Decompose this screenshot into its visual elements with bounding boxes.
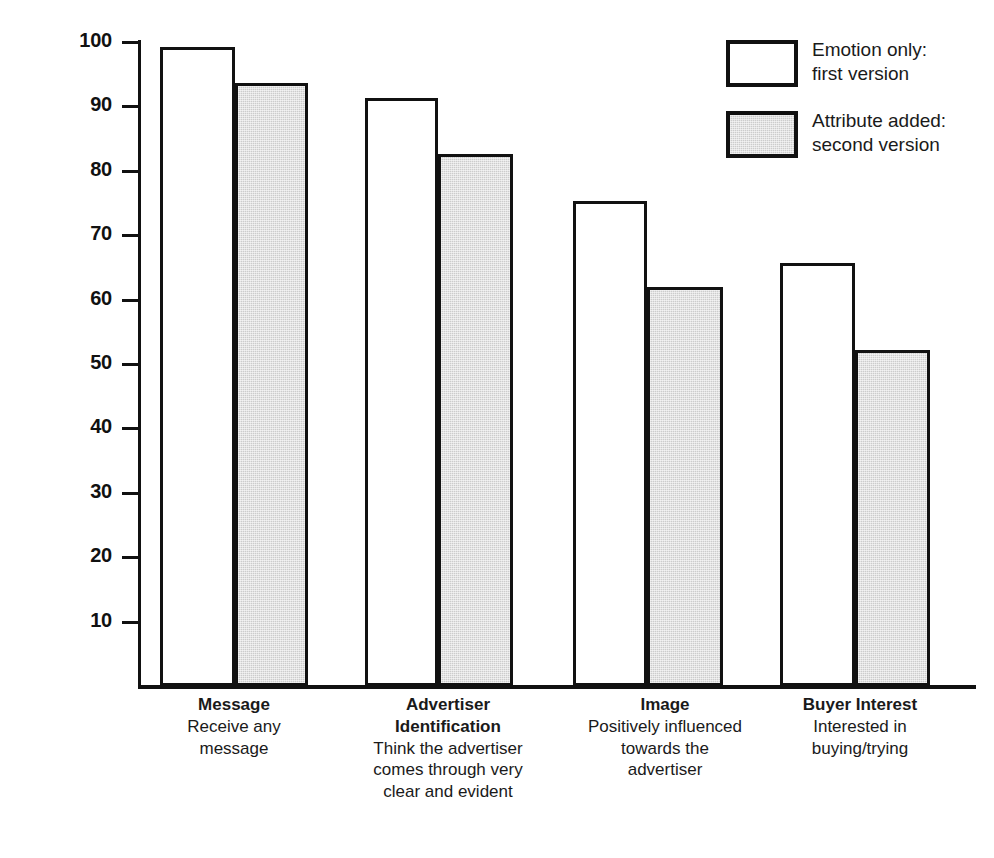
y-tick-label: 10 <box>68 609 112 632</box>
y-tick-mark <box>122 556 138 559</box>
legend-swatch-white-outline-icon <box>726 40 798 87</box>
bar-second-version <box>235 83 308 686</box>
category-title: Buyer Interest <box>760 694 960 716</box>
category-label-2: Advertiser IdentificationThink the adver… <box>338 694 558 803</box>
bar-first-version <box>160 47 235 686</box>
legend-swatch-gray-filled-icon <box>726 111 798 158</box>
category-title: Image <box>560 694 770 716</box>
y-tick-mark <box>122 170 138 173</box>
y-tick-mark <box>122 234 138 237</box>
category-description: Interested in buying/trying <box>760 716 960 760</box>
y-tick-label: 40 <box>68 415 112 438</box>
y-tick-mark <box>122 492 138 495</box>
legend-item-first-version: Emotion only: first version <box>726 38 988 87</box>
legend-item-second-version: Attribute added: second version <box>726 109 988 158</box>
y-tick-label: 70 <box>68 222 112 245</box>
y-tick-mark <box>122 105 138 108</box>
category-label-4: Buyer InterestInterested in buying/tryin… <box>760 694 960 759</box>
bar-second-version <box>438 154 513 686</box>
bar-second-version <box>855 350 930 686</box>
bar-first-version <box>573 201 647 686</box>
y-tick-label: 30 <box>68 480 112 503</box>
y-tick-label: 20 <box>68 544 112 567</box>
category-description: Think the advertiser comes through very … <box>338 738 558 803</box>
bar-second-version <box>647 287 723 686</box>
category-title: Advertiser Identification <box>338 694 558 738</box>
bar-chart: Per cent 100908070605040302010 MessageRe… <box>0 0 994 858</box>
bar-first-version <box>780 263 855 686</box>
y-tick-label: 90 <box>68 93 112 116</box>
y-tick-label: 60 <box>68 287 112 310</box>
bar-first-version <box>365 98 438 686</box>
y-tick-mark <box>122 427 138 430</box>
legend-label-first-version: Emotion only: first version <box>812 38 927 85</box>
category-label-3: ImagePositively influenced towards the a… <box>560 694 770 781</box>
y-tick-mark <box>122 363 138 366</box>
legend-label-second-version: Attribute added: second version <box>812 109 946 156</box>
chart-legend: Emotion only: first version Attribute ad… <box>726 38 988 180</box>
y-tick-label: 80 <box>68 158 112 181</box>
y-tick-label: 50 <box>68 351 112 374</box>
category-description: Positively influenced towards the advert… <box>560 716 770 781</box>
y-tick-label: 100 <box>68 29 112 52</box>
category-description: Receive any message <box>134 716 334 760</box>
category-label-1: MessageReceive any message <box>134 694 334 759</box>
y-tick-mark <box>122 41 138 44</box>
y-tick-mark <box>122 621 138 624</box>
category-title: Message <box>134 694 334 716</box>
y-tick-mark <box>122 299 138 302</box>
